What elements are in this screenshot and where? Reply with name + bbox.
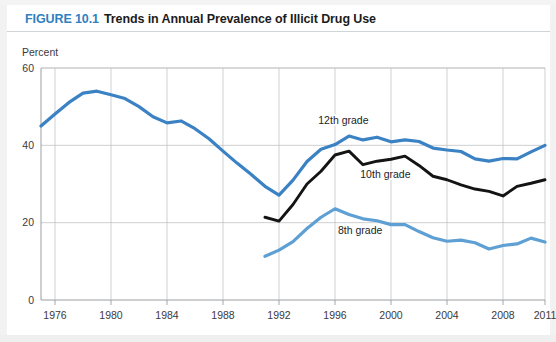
- figure-container: FIGURE 10.1Trends in Annual Prevalence o…: [0, 0, 556, 342]
- x-tick-label: 1980: [99, 309, 123, 321]
- page-title: FIGURE 10.1Trends in Annual Prevalence o…: [25, 12, 376, 26]
- plot-area: Percent 02040601976198019841988199219962…: [0, 32, 556, 342]
- x-tick-label: 2004: [435, 309, 459, 321]
- series-line-12th-grade: [41, 91, 545, 195]
- figure-number: FIGURE 10.1: [25, 12, 99, 26]
- x-tick-label: 1992: [267, 309, 291, 321]
- line-chart: 0204060197619801984198819921996200020042…: [0, 32, 556, 342]
- y-tick-label: 60: [22, 62, 34, 74]
- x-tick-label: 1996: [323, 309, 347, 321]
- figure-title-text: Trends in Annual Prevalence of Illicit D…: [104, 12, 376, 26]
- y-tick-label: 0: [28, 294, 34, 306]
- x-tick-label: 2000: [379, 309, 403, 321]
- series-label-10th-grade: 10th grade: [360, 168, 410, 180]
- series-label-8th-grade: 8th grade: [338, 224, 383, 236]
- x-tick-label: 1976: [43, 309, 67, 321]
- series-label-12th-grade: 12th grade: [318, 114, 368, 126]
- x-tick-label: 1984: [155, 309, 179, 321]
- y-tick-label: 40: [22, 139, 34, 151]
- y-tick-label: 20: [22, 216, 34, 228]
- figure-title-bar: FIGURE 10.1Trends in Annual Prevalence o…: [7, 5, 550, 32]
- x-tick-label: 2011: [534, 309, 556, 321]
- x-tick-label: 1988: [211, 309, 235, 321]
- x-tick-label: 2008: [491, 309, 515, 321]
